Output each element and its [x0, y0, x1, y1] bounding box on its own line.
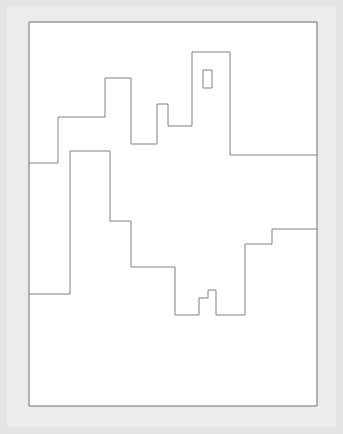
paper-background: [29, 22, 317, 406]
screenshot-root: [0, 0, 343, 434]
line-drawing-svg: [0, 0, 343, 434]
drawing-surface: [0, 0, 343, 434]
